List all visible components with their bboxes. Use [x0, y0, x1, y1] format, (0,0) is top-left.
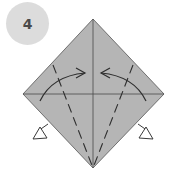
hollow-arrow-left-icon — [33, 124, 48, 139]
origami-fold-diagram — [0, 0, 176, 180]
hollow-arrow-right-icon — [138, 124, 153, 139]
